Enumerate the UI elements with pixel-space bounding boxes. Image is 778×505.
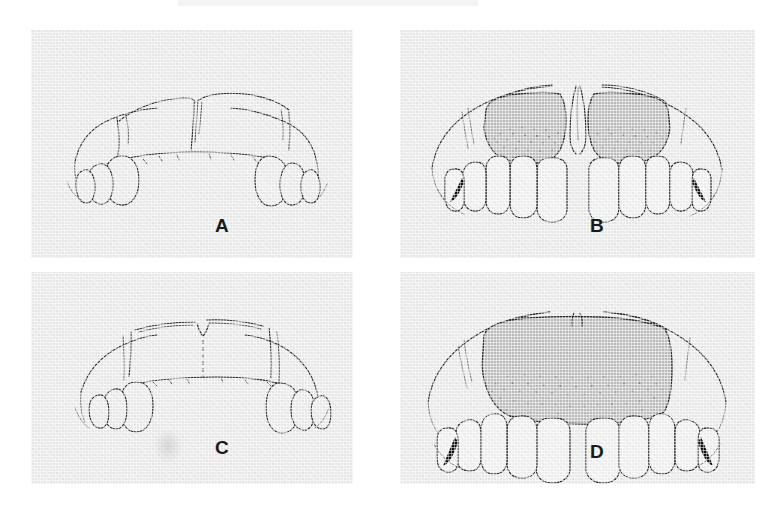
panel-c-drawing (75, 320, 331, 433)
midline-dotted-seam (202, 340, 204, 378)
scan-edge-artifact (178, 0, 478, 6)
panel-a-drawing (67, 93, 327, 206)
print-smudge-artifact (153, 428, 183, 464)
figure-panel-b: B (400, 30, 755, 258)
panel-label-b: B (590, 216, 604, 235)
panel-label-d: D (590, 442, 604, 461)
panel-label-a: A (215, 216, 229, 235)
figure-panel-a: A (31, 30, 353, 258)
panel-d-drawing (428, 312, 726, 483)
figure-panel-d: D (400, 272, 755, 484)
panel-b-drawing (432, 85, 722, 222)
figure-sheet: A (0, 0, 778, 505)
panel-label-c: C (215, 438, 229, 457)
figure-panel-c: C (31, 272, 353, 484)
